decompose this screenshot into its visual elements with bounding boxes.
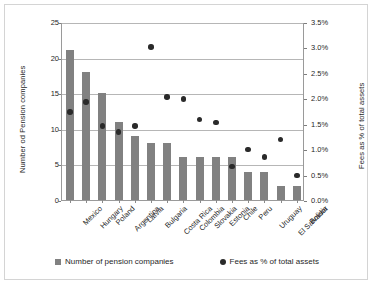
dot-slot (208, 23, 224, 200)
data-point (245, 147, 251, 153)
x-axis-tick-mark (281, 200, 282, 203)
dot-slot (289, 23, 305, 200)
y-axis-right-tick-label: 3.0% (311, 44, 328, 52)
y-axis-right-tick-label: 1.5% (311, 121, 328, 129)
x-axis-category-labels: MexicoHungaryPolandArgentinaLatviaBulgar… (61, 204, 304, 252)
x-axis-tick-mark (264, 200, 265, 203)
dot-slot (175, 23, 191, 200)
x-axis-category-label: Latvia (145, 204, 166, 225)
circle-marker-icon (220, 259, 226, 265)
dot-slot (256, 23, 272, 200)
data-point (100, 123, 106, 129)
data-point (213, 120, 219, 126)
x-axis-category-label: Bolivia (307, 204, 329, 226)
data-point (181, 96, 187, 102)
plot-area (61, 23, 304, 201)
data-point (294, 173, 300, 179)
data-point (132, 123, 138, 129)
x-axis-tick-mark (151, 200, 152, 203)
legend-label-dots: Fees as % of total assets (230, 257, 319, 266)
x-axis-tick-mark (102, 200, 103, 203)
x-axis-category-label: Peru (257, 204, 275, 222)
dot-slot (192, 23, 208, 200)
x-axis-tick-mark (167, 200, 168, 203)
dot-slot (240, 23, 256, 200)
data-point (116, 129, 122, 135)
data-point (278, 137, 284, 143)
x-axis-tick-mark (248, 200, 249, 203)
dot-slot (143, 23, 159, 200)
square-marker-icon (55, 259, 61, 265)
data-point (83, 99, 89, 105)
dot-slot (94, 23, 110, 200)
y-axis-right-tick-mark (304, 201, 307, 202)
dot-slot (159, 23, 175, 200)
chart-legend: Number of pension companies Fees as % of… (5, 257, 369, 266)
y-axis-left-tick-mark (58, 201, 61, 202)
data-point (164, 94, 170, 100)
y-axis-right-tick-label: 0.0% (311, 197, 328, 205)
x-axis-tick-mark (86, 200, 87, 203)
dot-slot (127, 23, 143, 200)
x-axis-tick-mark (297, 200, 298, 203)
data-point (148, 44, 154, 50)
y-axis-right-title: Fees as % of total assets (357, 83, 366, 169)
x-axis-tick-mark (119, 200, 120, 203)
dot-slot (78, 23, 94, 200)
dot-slot (273, 23, 289, 200)
x-axis-tick-mark (232, 200, 233, 203)
x-axis-tick-mark (135, 200, 136, 203)
y-axis-right-tick-label: 2.5% (311, 70, 328, 78)
dot-slot (111, 23, 127, 200)
y-axis-right-tick-label: 0.5% (311, 172, 328, 180)
data-point (197, 117, 203, 123)
legend-item-dots: Fees as % of total assets (220, 257, 319, 266)
y-axis-left-title: Number od Pension companies (18, 66, 27, 173)
x-axis-tick-mark (216, 200, 217, 203)
y-axis-right-tick-label: 3.5% (311, 19, 328, 27)
data-point (262, 154, 268, 160)
legend-label-bars: Number of pension companies (65, 257, 174, 266)
data-point (67, 109, 73, 115)
legend-item-bars: Number of pension companies (55, 257, 174, 266)
dot-slot (224, 23, 240, 200)
dot-slot (62, 23, 78, 200)
x-axis-tick-mark (70, 200, 71, 203)
x-axis-tick-mark (200, 200, 201, 203)
x-axis-tick-mark (183, 200, 184, 203)
chart-container: Number od Pension companies Fees as % of… (4, 4, 368, 280)
y-axis-right-tick-label: 2.0% (311, 95, 328, 103)
data-point (229, 164, 235, 170)
y-axis-right-tick-label: 1.0% (311, 146, 328, 154)
